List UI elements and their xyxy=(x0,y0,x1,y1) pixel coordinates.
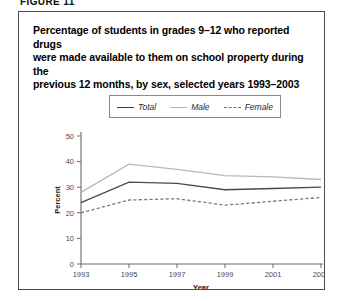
x-tick-label: 2003 xyxy=(313,270,325,279)
data-series-group xyxy=(81,164,321,213)
x-axis-title: Year xyxy=(193,283,209,289)
legend-label-male: Male xyxy=(191,102,209,112)
legend-swatch-female-icon xyxy=(224,103,241,111)
x-tick-label: 2001 xyxy=(265,270,282,279)
y-tick-label: 30 xyxy=(66,183,74,192)
chart-title: Percentage of students in grades 9–12 wh… xyxy=(33,24,313,92)
x-tick-label: 1993 xyxy=(73,270,90,279)
x-tick-label: 1995 xyxy=(121,270,138,279)
legend-swatch-total-icon xyxy=(117,103,134,111)
x-axis-ticks: 199319951997199920012003 xyxy=(73,264,325,279)
chart-title-line-3: previous 12 months, by sex, selected yea… xyxy=(33,78,313,92)
legend-item-male: Male xyxy=(170,102,209,112)
x-tick-label: 1997 xyxy=(169,270,186,279)
y-tick-label: 20 xyxy=(66,209,74,218)
legend-label-total: Total xyxy=(138,102,156,112)
legend-item-total: Total xyxy=(117,102,156,112)
y-tick-label: 0 xyxy=(70,260,74,269)
y-axis-ticks: 01020304050 xyxy=(66,132,81,269)
x-tick-label: 1999 xyxy=(217,270,234,279)
chart-title-line-1: Percentage of students in grades 9–12 wh… xyxy=(33,24,313,51)
chart-legend: Total Male Female xyxy=(109,95,281,118)
y-axis-title: Percent xyxy=(53,186,62,214)
y-tick-label: 50 xyxy=(66,132,74,141)
chart-title-line-2: were made available to them on school pr… xyxy=(33,51,313,78)
legend-swatch-male-icon xyxy=(170,103,187,111)
y-tick-label: 40 xyxy=(66,157,74,166)
figure-container: Percentage of students in grades 9–12 wh… xyxy=(18,11,325,290)
legend-item-female: Female xyxy=(224,102,273,112)
figure-label: FIGURE 11 xyxy=(20,0,75,7)
series-line-female xyxy=(81,197,321,212)
y-tick-label: 10 xyxy=(66,234,74,243)
line-chart: 01020304050 199319951997199920012003 Per… xyxy=(33,124,325,289)
legend-label-female: Female xyxy=(245,102,273,112)
plot-area: 01020304050 199319951997199920012003 Per… xyxy=(33,124,325,289)
series-line-total xyxy=(81,182,321,202)
